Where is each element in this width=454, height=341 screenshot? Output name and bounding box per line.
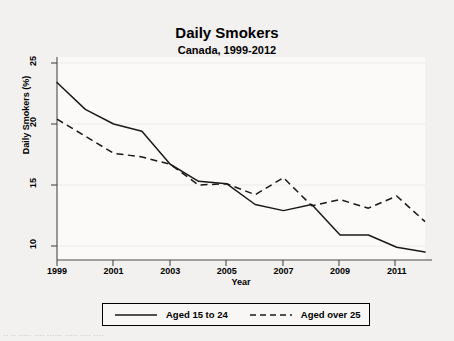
- x-tick-label: 2001: [94, 266, 134, 276]
- chart-legend: Aged 15 to 24 Aged over 25: [102, 303, 370, 326]
- x-axis-label: Year: [57, 277, 425, 287]
- legend-dashed-line-icon: [249, 310, 293, 320]
- chart-figure: Daily Smokers Canada, 1999-2012 Daily Sm…: [0, 0, 454, 341]
- chart-title: Daily Smokers: [0, 24, 454, 41]
- x-tick-label: 2005: [207, 266, 247, 276]
- legend-label: Aged over 25: [301, 309, 361, 320]
- caption-text: ·· ·· ····· ···· ······ ····· ···· ····: [0, 330, 454, 341]
- y-tick-label: 10: [28, 232, 38, 256]
- legend-label: Aged 15 to 24: [166, 309, 228, 320]
- legend-entry-aged-over-25: Aged over 25: [249, 304, 361, 325]
- x-tick-label: 2009: [320, 266, 360, 276]
- x-tick-label: 1999: [37, 266, 77, 276]
- y-tick-label: 20: [28, 110, 38, 134]
- x-tick-label: 2011: [377, 266, 417, 276]
- legend-entry-aged-15-to-24: Aged 15 to 24: [114, 304, 228, 325]
- y-tick-label: 15: [28, 171, 38, 195]
- x-tick-label: 2007: [263, 266, 303, 276]
- caption-strip: ·· ·· ····· ···· ······ ····· ···· ····: [0, 330, 454, 341]
- y-tick-label: 25: [28, 49, 38, 73]
- chart-subtitle: Canada, 1999-2012: [0, 44, 454, 56]
- x-tick-label: 2003: [150, 266, 190, 276]
- legend-solid-line-icon: [114, 310, 158, 320]
